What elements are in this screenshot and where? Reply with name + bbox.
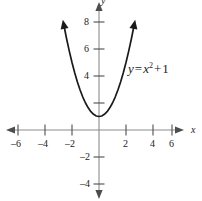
x-tick-label-minus-2: –2 bbox=[65, 139, 75, 149]
equation-equals: = bbox=[134, 61, 143, 76]
y-tick-label-minus-4: –4 bbox=[80, 179, 90, 189]
x-axis-label: x bbox=[191, 125, 195, 135]
x-axis-left-arrow-icon bbox=[6, 126, 15, 133]
parabola-right-arrow-icon bbox=[129, 20, 137, 30]
x-tick-label-4: 4 bbox=[150, 139, 155, 149]
y-tick-label-8: 8 bbox=[84, 17, 89, 27]
y-axis-bottom-arrow-icon bbox=[95, 190, 102, 199]
y-tick-label-minus-2: –2 bbox=[80, 152, 90, 162]
equation-plus: + bbox=[153, 61, 162, 76]
x-tick-label-minus-6: –6 bbox=[11, 139, 21, 149]
equation-lhs: y bbox=[128, 61, 134, 76]
equation-constant: 1 bbox=[162, 61, 169, 76]
y-tick-label-4: 4 bbox=[84, 71, 89, 81]
equation-annotation: y=x2+1 bbox=[128, 62, 169, 75]
graph-figure: –6 –4 –2 2 4 6 8 6 4 –2 –4 x y y=x2+1 bbox=[0, 0, 202, 201]
parabola-left-arrow-icon bbox=[61, 20, 69, 30]
x-tick-label-2: 2 bbox=[123, 139, 128, 149]
y-axis-label: y bbox=[101, 0, 105, 6]
x-tick-label-6: 6 bbox=[169, 139, 174, 149]
x-axis-right-arrow-icon bbox=[175, 126, 184, 133]
coordinate-plane bbox=[0, 0, 202, 201]
y-tick-label-6: 6 bbox=[84, 44, 89, 54]
x-tick-label-minus-4: –4 bbox=[38, 139, 48, 149]
